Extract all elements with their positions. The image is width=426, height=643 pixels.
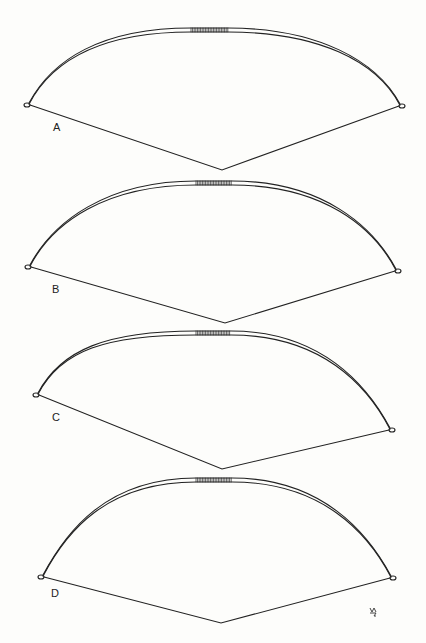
right-nock (399, 104, 405, 108)
bow-string (31, 267, 395, 323)
bow-limb-inner (30, 185, 396, 270)
left-nock (24, 103, 30, 107)
bow-limb-inner (38, 335, 390, 429)
bow-string (30, 105, 399, 170)
right-nock (390, 576, 396, 580)
left-nock (38, 575, 44, 579)
bow-limb-outer (29, 28, 400, 104)
right-nock (389, 428, 395, 432)
bow-string (44, 577, 390, 623)
bow-limb-outer (43, 478, 391, 576)
bow-string (39, 395, 389, 469)
bow-label-b: B (52, 283, 59, 295)
grip-wrapping (191, 28, 228, 32)
bow-b (25, 181, 401, 323)
right-nock (395, 269, 401, 273)
grip-wrapping (196, 331, 230, 335)
bow-limb-outer (38, 331, 390, 428)
bow-label-d: D (51, 587, 59, 599)
bow-label-a: A (53, 121, 60, 133)
left-nock (25, 265, 31, 269)
bow-limb-inner (43, 482, 391, 577)
bow-a (24, 28, 405, 170)
bow-c (33, 331, 395, 469)
signature-mark (370, 608, 376, 616)
bow-limb-inner (29, 32, 400, 105)
grip-wrapping (196, 181, 231, 185)
left-nock (33, 393, 39, 397)
bow-limb-outer (30, 181, 396, 269)
grip-wrapping (196, 478, 231, 482)
bows-diagram (0, 0, 426, 643)
bow-label-c: C (52, 411, 60, 423)
bow-d (38, 478, 396, 623)
